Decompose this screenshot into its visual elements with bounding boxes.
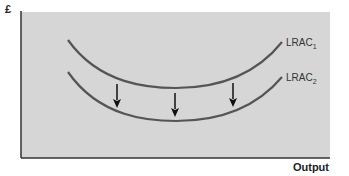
cost-curve-diagram: LRAC1 LRAC2 — [0, 0, 349, 176]
plot-area — [21, 12, 330, 158]
x-axis-label: Output — [293, 161, 329, 173]
